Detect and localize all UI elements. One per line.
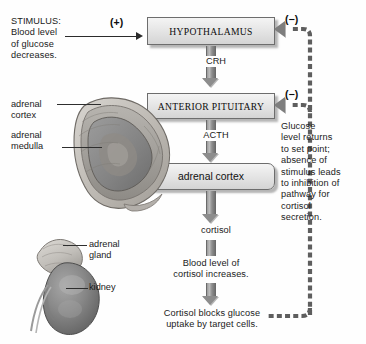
arrow-cortisol: [202, 191, 218, 223]
stimulus-arrow-line: [65, 36, 137, 37]
box-anterior-pituitary-label: ANTERIOR PITUITARY: [158, 101, 265, 112]
box-adrenal-cortex-label: adrenal cortex: [178, 171, 244, 182]
arrow-to-final: [202, 283, 218, 305]
label-adrenal-medulla: adrenal medulla: [11, 130, 69, 153]
result-blood-cortisol: Blood level of cortisol increases.: [151, 258, 271, 281]
leader-adrenal-gland: [63, 245, 87, 246]
stimulus-text: STIMULUS: Blood level of glucose decreas…: [11, 16, 97, 62]
box-hypothalamus[interactable]: HYPOTHALAMUS: [147, 17, 275, 45]
feedback-arrowhead-hypothalamus: [274, 21, 285, 37]
arrow-acth-head: [202, 153, 218, 162]
arrow-to-final-shaft: [206, 283, 216, 296]
leader-adrenal-medulla: [62, 147, 102, 148]
leader-adrenal-cortex: [57, 104, 101, 105]
result-cortisol-blocks: Cortisol blocks glucose uptake by target…: [143, 308, 281, 331]
label-adrenal-gland: adrenal gland: [89, 239, 145, 262]
plus-sign: (+): [110, 16, 123, 28]
arrow-crh-head: [202, 78, 218, 87]
stimulus-arrow-head: [136, 32, 143, 40]
hormone-crh-label: CRH: [196, 56, 236, 67]
hormone-cortisol-label: cortisol: [185, 225, 247, 236]
arrow-cortisol-head: [202, 214, 218, 223]
arrow-to-final-head: [202, 296, 218, 305]
minus-sign-lower: (−): [285, 88, 298, 100]
feedback-arrowhead-pituitary: [274, 97, 285, 113]
diagram-canvas: STIMULUS: Blood level of glucose decreas…: [0, 0, 366, 344]
minus-sign-upper: (−): [285, 13, 298, 25]
hormone-acth-label: ACTH: [194, 130, 238, 141]
feedback-explanation: Glucose level returns to set point; abse…: [281, 121, 361, 224]
leader-kidney: [66, 288, 88, 289]
label-kidney: kidney: [89, 282, 139, 293]
label-adrenal-cortex: adrenal cortex: [11, 99, 67, 122]
arrow-stub-1: [206, 240, 216, 256]
arrow-cortisol-shaft: [206, 191, 216, 214]
box-hypothalamus-label: HYPOTHALAMUS: [169, 26, 253, 37]
